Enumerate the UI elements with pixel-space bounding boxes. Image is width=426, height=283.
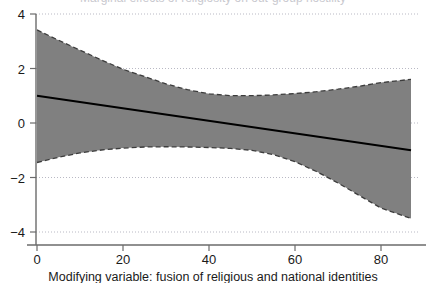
x-axis: 0 20 40 60 80 bbox=[27, 245, 426, 267]
x-axis-title: Modifying variable: fusion of religious … bbox=[48, 270, 377, 283]
confidence-band-group bbox=[37, 30, 411, 219]
y-tick-label-0: 0 bbox=[18, 116, 25, 131]
y-tick-label-neg4: −4 bbox=[10, 225, 25, 240]
x-tick-label-80: 80 bbox=[374, 252, 388, 267]
marginal-effects-chart: Marginal effects of religiosity on out-g… bbox=[0, 0, 426, 283]
chart-canvas: Marginal effects of religiosity on out-g… bbox=[0, 0, 426, 283]
y-tick-label-4: 4 bbox=[18, 7, 25, 22]
x-tick-label-0: 0 bbox=[33, 252, 40, 267]
cropped-title-text: Marginal effects of religiosity on out-g… bbox=[80, 0, 346, 5]
x-tick-label-60: 60 bbox=[288, 252, 302, 267]
x-tick-label-20: 20 bbox=[116, 252, 130, 267]
cropped-title-remnant: Marginal effects of religiosity on out-g… bbox=[80, 0, 346, 5]
y-axis: 4 2 0 −2 −4 bbox=[10, 7, 36, 245]
confidence-band-fill bbox=[37, 30, 411, 219]
y-tick-label-2: 2 bbox=[18, 62, 25, 77]
x-tick-label-40: 40 bbox=[202, 252, 216, 267]
y-tick-label-neg2: −2 bbox=[10, 171, 25, 186]
